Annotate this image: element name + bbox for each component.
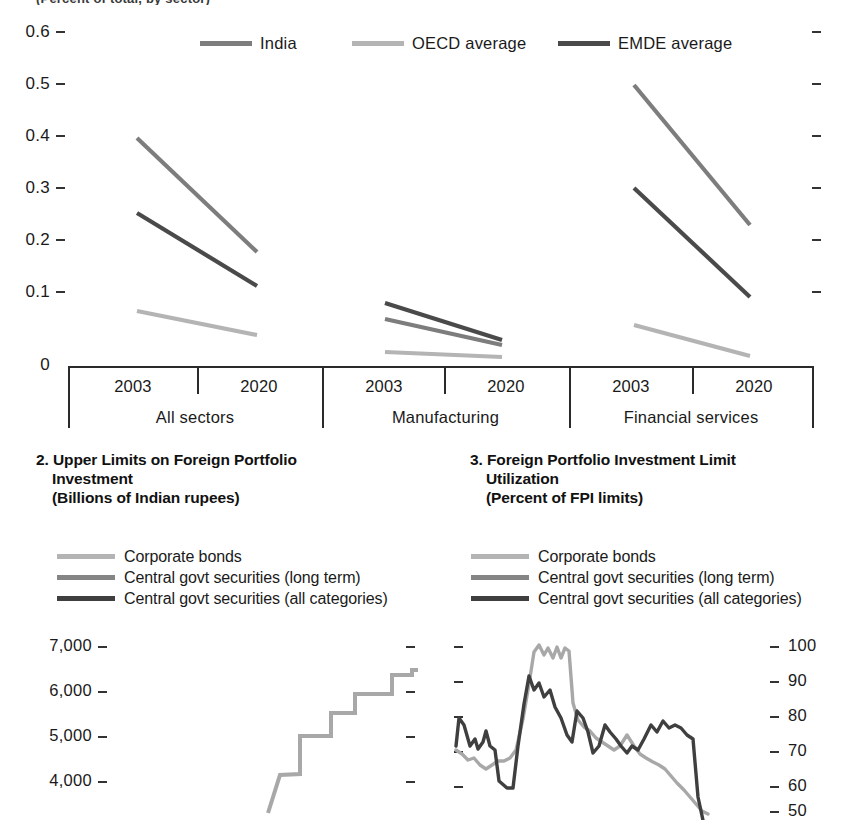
panel-3-legend: Corporate bonds Central govt securities … [471,546,802,609]
panel2-legend-item-1: Central govt securities (long term) [57,567,388,588]
panel1-xlabel-year-4: 2003 [586,377,676,396]
panel3-title-line1: Foreign Portfolio Investment Limit [487,451,736,468]
panel3-legend-label-0: Corporate bonds [538,548,656,566]
panel2-line-corporate-bonds [268,670,418,813]
panel2-title-line1: Upper Limits on Foreign Portfolio [53,451,297,468]
panel3-line-central-govt-all [456,676,722,820]
panel1-line-oecd-manufacturing [385,352,502,357]
panel1-year-divider-1 [444,366,446,394]
panel1-xlabel-year-2: 2003 [340,377,428,396]
panel2-legend-label-0: Corporate bonds [124,548,242,566]
panel2-title-line3: (Billions of Indian rupees) [36,488,436,507]
legend-swatch-icon [57,575,115,580]
legend-swatch-icon [471,575,529,580]
panel1-line-oecd-financial [634,325,750,356]
panel3-legend-item-2: Central govt securities (all categories) [471,588,802,609]
panel3-title-line3: (Percent of FPI limits) [470,488,850,507]
legend-swatch-icon [471,596,529,601]
panel2-title-line2: Investment [36,469,436,488]
panel-3-title: 3. Foreign Portfolio Investment Limit Ut… [470,450,850,507]
panel3-legend-item-0: Corporate bonds [471,546,802,567]
legend-swatch-icon [57,596,115,601]
panel3-legend-item-1: Central govt securities (long term) [471,567,802,588]
panel1-x-axis [68,366,813,368]
panel1-xlabel-group-0: All sectors [68,408,322,427]
panel-3-chart: 100 90 80 70 60 50 [440,615,853,813]
panel1-xlabel-year-3: 2020 [460,377,552,396]
panel1-year-divider-2 [692,366,694,394]
legend-swatch-icon [57,554,115,559]
panel1-year-divider-0 [197,366,199,394]
panel1-xlabel-year-5: 2020 [708,377,800,396]
panel1-line-oecd-allsectors [137,311,257,335]
panel1-xlabel-group-1: Manufacturing [322,408,569,427]
panel3-title-line2: Utilization [470,469,850,488]
panel-1-chart: (Percent of total, by sector) 0.6 0.5 0.… [0,0,853,445]
panel2-legend-item-0: Corporate bonds [57,546,388,567]
panel1-xlabel-year-1: 2020 [213,377,305,396]
panel2-legend-label-2: Central govt securities (all categories) [124,590,388,608]
panel1-line-emde-allsectors [137,213,257,286]
panel3-line-corporate-bonds [456,645,708,814]
panel1-xlabel-year-0: 2003 [88,377,178,396]
panel2-number: 2. [36,451,49,468]
legend-swatch-icon [471,554,529,559]
panel1-line-india-allsectors [137,138,257,252]
panel2-legend-label-1: Central govt securities (long term) [124,569,361,587]
panel2-plot-lines [0,615,440,813]
panel2-legend-item-2: Central govt securities (all categories) [57,588,388,609]
panel-2-chart: 7,000 6,000 5,000 4,000 [0,615,440,813]
panel-2-title: 2. Upper Limits on Foreign Portfolio Inv… [36,450,436,507]
panel-2-legend: Corporate bonds Central govt securities … [57,546,388,609]
panel1-plot-lines [0,0,853,380]
panel3-plot-lines [440,615,853,813]
panel3-legend-label-1: Central govt securities (long term) [538,569,775,587]
panel1-xlabel-group-2: Financial services [569,408,813,427]
panel3-number: 3. [470,451,483,468]
panel3-legend-label-2: Central govt securities (all categories) [538,590,802,608]
